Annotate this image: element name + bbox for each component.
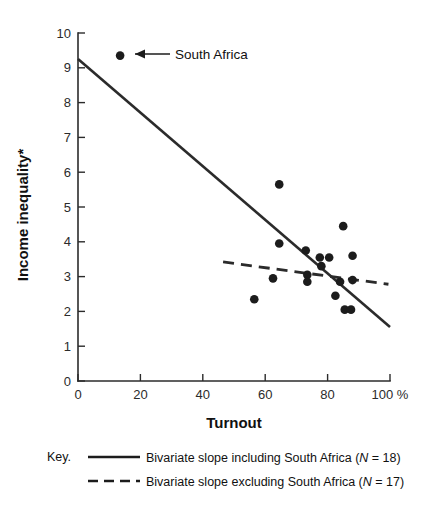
data-point xyxy=(275,180,284,189)
data-point xyxy=(269,274,278,283)
x-tick-label: 80 xyxy=(320,387,334,402)
legend-label-dashed: Bivariate slope excluding South Africa (… xyxy=(146,475,404,489)
regression-lines xyxy=(78,59,390,327)
y-axis-title: Income inequality* xyxy=(14,149,31,282)
data-point xyxy=(317,262,326,271)
scatter-plot-svg: Income inequality* 012345678910 02040608… xyxy=(0,0,438,508)
y-tick-label: 4 xyxy=(64,234,71,249)
x-axis: 020406080100 % xyxy=(74,374,408,402)
x-tick-label: 60 xyxy=(258,387,272,402)
y-tick-label: 10 xyxy=(57,26,71,41)
legend-key-word: Key. xyxy=(47,450,71,464)
legend: Key. Bivariate slope including South Afr… xyxy=(47,450,404,489)
data-point xyxy=(316,253,325,262)
data-point xyxy=(250,295,259,304)
data-point xyxy=(325,253,334,262)
legend-entry-solid: Bivariate slope including South Africa (… xyxy=(88,451,401,465)
data-point xyxy=(275,239,284,248)
y-axis: 012345678910 xyxy=(57,26,85,389)
y-tick-label: 6 xyxy=(64,165,71,180)
data-point xyxy=(336,278,345,287)
data-point xyxy=(303,278,312,287)
annotation-label: South Africa xyxy=(175,47,248,62)
data-point xyxy=(348,276,357,285)
data-point xyxy=(339,222,348,231)
y-tick-label: 9 xyxy=(64,60,71,75)
south-africa-annotation: South Africa xyxy=(135,47,248,62)
annotation-arrow-head xyxy=(135,50,145,59)
data-point xyxy=(347,305,356,314)
x-tick-label: 0 xyxy=(74,387,81,402)
y-tick-label: 2 xyxy=(64,304,71,319)
legend-label-solid: Bivariate slope including South Africa (… xyxy=(146,451,401,465)
figure-container: Income inequality* 012345678910 02040608… xyxy=(0,0,438,508)
x-tick-label: 100 % xyxy=(372,387,409,402)
data-point xyxy=(331,291,340,300)
x-tick-label: 40 xyxy=(196,387,210,402)
data-point-south-africa xyxy=(116,51,125,60)
data-point xyxy=(301,246,310,255)
fit-line-including-south-africa xyxy=(78,59,390,327)
x-tick-label: 20 xyxy=(133,387,147,402)
x-axis-title: Turnout xyxy=(206,414,262,431)
data-point xyxy=(348,251,357,260)
y-tick-label: 5 xyxy=(64,200,71,215)
y-tick-label: 1 xyxy=(64,339,71,354)
y-tick-label: 0 xyxy=(64,374,71,389)
y-tick-label: 7 xyxy=(64,130,71,145)
y-tick-label: 3 xyxy=(64,269,71,284)
legend-entry-dashed: Bivariate slope excluding South Africa (… xyxy=(88,475,404,489)
y-tick-label: 8 xyxy=(64,95,71,110)
